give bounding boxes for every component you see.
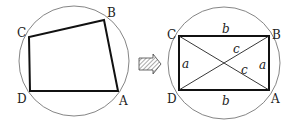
- left-quadrilateral: [29, 20, 118, 91]
- right-label-d: D: [167, 92, 177, 106]
- diag-label-upper: c: [233, 42, 240, 56]
- right-arrow-icon: [139, 54, 161, 74]
- right-label-b: B: [272, 28, 281, 42]
- left-label-c: C: [17, 26, 26, 40]
- left-label-d: D: [17, 92, 27, 106]
- diagram-canvas: C B A D C B A D b b a a c c: [0, 0, 299, 125]
- diag-label-lower: c: [241, 63, 248, 77]
- side-label-left: a: [182, 57, 189, 71]
- left-label-b: B: [107, 6, 116, 20]
- side-label-right: a: [259, 58, 266, 72]
- right-label-a: A: [270, 92, 280, 106]
- side-label-top: b: [222, 22, 230, 36]
- left-figure: C B A D: [17, 6, 129, 116]
- side-label-bottom: b: [222, 94, 230, 108]
- right-label-c: C: [167, 28, 176, 42]
- left-label-a: A: [118, 94, 128, 108]
- right-figure: C B A D b b a a c c: [167, 7, 281, 119]
